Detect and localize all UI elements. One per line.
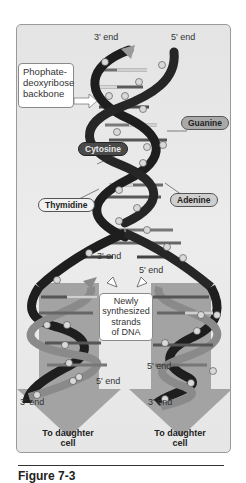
fork-three-prime-end-label: 3' end bbox=[97, 252, 121, 261]
figure-caption: Figure 7-3 bbox=[18, 469, 75, 483]
thymidine-label: Thymidine bbox=[38, 198, 95, 212]
left-daughter-five-prime-label: 5' end bbox=[96, 377, 120, 386]
left-daughter-label-line-2: cell bbox=[30, 439, 106, 449]
guanine-label: Guanine bbox=[181, 116, 229, 130]
fork-five-prime-end-label: 5' end bbox=[139, 266, 163, 275]
new-strands-line-3: strands bbox=[100, 317, 152, 327]
backbone-callout-line-3: backbone bbox=[23, 89, 73, 100]
top-three-prime-end-label: 3' end bbox=[94, 33, 118, 42]
new-strands-line-1: Newly bbox=[100, 296, 152, 306]
left-daughter-three-prime-label: 3' end bbox=[20, 398, 44, 407]
right-daughter-three-prime-label: 3' end bbox=[148, 398, 172, 407]
left-daughter-cell-label: To daughter cell bbox=[30, 429, 106, 449]
right-daughter-label-line-2: cell bbox=[142, 439, 218, 449]
right-daughter-five-prime-label: 5' end bbox=[147, 362, 171, 371]
adenine-label: Adenine bbox=[170, 193, 218, 207]
new-strands-line-2: synthesized bbox=[100, 306, 152, 316]
new-strands-callout: Newly synthesized strands of DNA bbox=[99, 293, 153, 341]
caption-divider bbox=[18, 465, 224, 466]
backbone-callout: Phophate- deoxyribose backbone bbox=[18, 63, 74, 108]
diagram-panel: 3' end 5' end Phophate- deoxyribose back… bbox=[16, 24, 231, 453]
new-strands-line-4: of DNA bbox=[100, 327, 152, 337]
cytosine-label: Cytosine bbox=[78, 142, 128, 156]
top-five-prime-end-label: 5' end bbox=[171, 33, 195, 42]
right-daughter-cell-label: To daughter cell bbox=[142, 429, 218, 449]
